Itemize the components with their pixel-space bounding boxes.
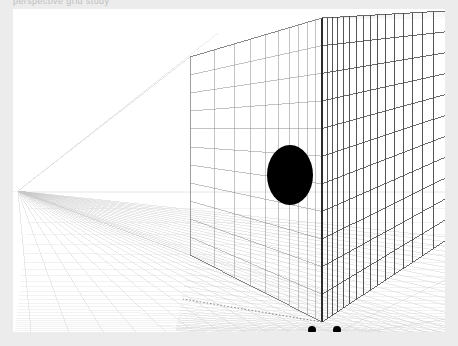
page-header-text: perspective grid study — [13, 0, 453, 7]
drawing-canvas[interactable] — [13, 9, 445, 332]
perspective-scene-svg — [13, 9, 445, 332]
black-ellipse-marker[interactable] — [267, 145, 313, 205]
black-ellipse-marker — [267, 145, 313, 205]
app-root: perspective grid study — [0, 0, 458, 346]
